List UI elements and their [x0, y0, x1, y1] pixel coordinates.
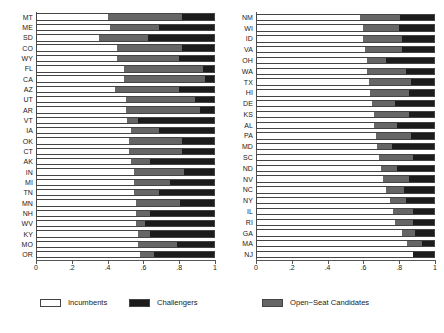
bar-segment	[386, 58, 434, 63]
bar-row-label: MI	[25, 179, 33, 186]
bar-row: UT	[36, 95, 215, 105]
bar-segment	[145, 221, 214, 226]
bar-segment	[136, 221, 145, 226]
bar-row: KS	[256, 109, 435, 120]
bar-segment	[170, 180, 214, 185]
bar-segment	[138, 231, 150, 236]
stacked-bar	[256, 219, 435, 226]
stacked-bar	[36, 251, 215, 258]
bar-row: WI	[256, 23, 435, 34]
bar-segment	[182, 14, 214, 19]
bar-row: AZ	[36, 84, 215, 94]
bar-row: NH	[36, 208, 215, 218]
bar-segment	[154, 252, 214, 257]
bar-segment	[177, 242, 214, 247]
bar-row-label: MO	[22, 241, 33, 248]
x-axis-tick	[143, 260, 144, 264]
bar-row: MO	[36, 239, 215, 249]
bar-segment	[399, 25, 434, 30]
bar-segment	[182, 45, 214, 50]
stacked-bar	[36, 55, 215, 62]
stacked-bar	[36, 158, 215, 165]
stacked-bar	[36, 168, 215, 175]
x-axis-tick	[435, 260, 436, 264]
bar-row: TN	[36, 188, 215, 198]
bar-segment	[257, 220, 395, 225]
bar-row: CO	[36, 43, 215, 53]
stacked-bar	[36, 44, 215, 51]
bar-row: SC	[256, 152, 435, 163]
bar-segment	[117, 45, 182, 50]
bar-segment	[393, 209, 412, 214]
legend-item-challengers: Challengers	[129, 299, 198, 307]
legend-label-incumbents: Incumbents	[68, 299, 107, 307]
bar-row: NC	[256, 185, 435, 196]
x-axis-tick	[363, 260, 364, 264]
x-axis-tick	[179, 260, 180, 264]
x-axis-tick-label: .4	[325, 264, 331, 271]
bar-segment	[37, 190, 134, 195]
bar-segment	[257, 47, 365, 52]
bar-row-label: ID	[246, 35, 253, 42]
bar-row: NY	[256, 195, 435, 206]
bar-segment	[415, 230, 434, 235]
x-axis-tick-label: 0	[34, 264, 38, 271]
bar-segment	[257, 15, 360, 20]
bar-segment	[182, 149, 214, 154]
stacked-bar	[256, 186, 435, 193]
stacked-bar	[256, 229, 435, 236]
bar-row: NV	[256, 174, 435, 185]
bar-segment	[179, 56, 214, 61]
bar-row-label: PA	[244, 132, 253, 139]
bar-segment	[37, 231, 138, 236]
bar-segment	[138, 242, 177, 247]
bar-row: SD	[36, 33, 215, 43]
bar-segment	[136, 211, 150, 216]
stacked-bar	[36, 148, 215, 155]
legend-swatch-incumbents	[40, 299, 61, 307]
x-axis-tick-label: .4	[105, 264, 111, 271]
bar-segment	[195, 97, 214, 102]
bar-row-label: SD	[23, 34, 33, 41]
bar-row: NM	[256, 12, 435, 23]
bar-row: OK	[36, 136, 215, 146]
bar-segment	[37, 128, 131, 133]
bar-segment	[407, 241, 421, 246]
bar-row-label: WI	[244, 25, 253, 32]
bar-segment	[37, 169, 134, 174]
bar-segment	[37, 76, 124, 81]
bar-segment	[150, 231, 214, 236]
stacked-bar	[256, 251, 435, 258]
bar-segment	[411, 133, 434, 138]
bar-segment	[257, 69, 367, 74]
bar-segment	[180, 200, 214, 205]
stacked-bar	[36, 117, 215, 124]
bar-row: CA	[36, 74, 215, 84]
bar-segment	[413, 252, 434, 257]
bar-row: FL	[36, 64, 215, 74]
bar-segment	[37, 97, 126, 102]
stacked-bar	[36, 65, 215, 72]
bar-row-label: TX	[244, 79, 253, 86]
stacked-bar	[36, 210, 215, 217]
bar-segment	[131, 128, 159, 133]
stacked-bar	[36, 13, 215, 20]
bar-segment	[257, 133, 376, 138]
stacked-bar	[36, 106, 215, 113]
x-axis-tick-label: 1	[433, 264, 437, 271]
bar-row-label: DE	[243, 100, 253, 107]
bar-segment	[134, 180, 169, 185]
bar-row: IN	[36, 167, 215, 177]
bar-segment	[140, 252, 154, 257]
bar-segment	[381, 166, 397, 171]
bar-segment	[124, 76, 205, 81]
bar-row-label: KS	[243, 111, 253, 118]
chart-panel-right: NMWIIDVAOHWATXHIDEKSALPAMDSCNDNVNCNYILRI…	[226, 12, 438, 284]
bar-row-label: HI	[246, 89, 253, 96]
legend-swatch-challengers	[129, 299, 150, 307]
bar-row-label: AR	[23, 107, 33, 114]
bar-row: AL	[256, 120, 435, 131]
bar-segment	[37, 221, 136, 226]
bar-segment	[37, 211, 136, 216]
bar-segment	[37, 56, 117, 61]
